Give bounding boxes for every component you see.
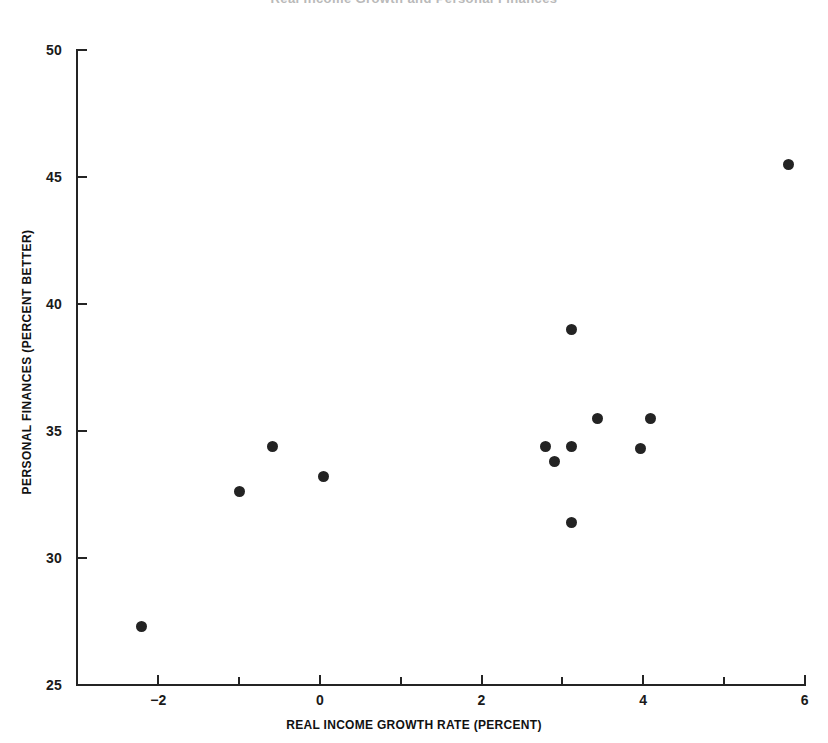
x-tick-label: −2 bbox=[133, 692, 183, 708]
y-tick-mark bbox=[76, 557, 87, 559]
y-axis-title: PERSONAL FINANCES (PERCENT BETTER) bbox=[20, 32, 34, 692]
data-point bbox=[234, 486, 245, 497]
y-tick-mark bbox=[76, 303, 87, 305]
data-point bbox=[318, 471, 329, 482]
y-tick-mark bbox=[76, 684, 87, 686]
clipped-header-text: Real Income Growth and Personal Finances bbox=[0, 0, 828, 4]
data-point bbox=[549, 456, 560, 467]
y-tick-mark bbox=[76, 176, 87, 178]
x-tick-mark-minor bbox=[561, 677, 563, 685]
x-tick-label: 6 bbox=[780, 692, 828, 708]
data-point bbox=[645, 413, 656, 424]
x-tick-mark bbox=[157, 675, 159, 685]
x-tick-label: 2 bbox=[457, 692, 507, 708]
x-tick-mark bbox=[319, 675, 321, 685]
x-tick-mark-minor bbox=[723, 677, 725, 685]
data-point bbox=[783, 159, 794, 170]
x-axis-title: REAL INCOME GROWTH RATE (PERCENT) bbox=[0, 718, 828, 732]
x-tick-label: 0 bbox=[295, 692, 345, 708]
y-tick-mark bbox=[76, 430, 87, 432]
data-point bbox=[136, 621, 147, 632]
y-tick-mark bbox=[76, 49, 87, 51]
data-point bbox=[635, 443, 646, 454]
x-tick-label: 4 bbox=[618, 692, 668, 708]
data-point bbox=[566, 324, 577, 335]
data-point bbox=[540, 441, 551, 452]
x-tick-mark-minor bbox=[238, 677, 240, 685]
data-point bbox=[592, 413, 603, 424]
x-tick-mark-minor bbox=[400, 677, 402, 685]
data-point bbox=[566, 517, 577, 528]
data-point bbox=[566, 441, 577, 452]
x-tick-mark bbox=[481, 675, 483, 685]
x-tick-mark bbox=[804, 675, 806, 685]
x-axis-line bbox=[76, 684, 806, 686]
scatter-plot-figure: Real Income Growth and Personal Finances… bbox=[0, 0, 828, 743]
x-tick-mark bbox=[642, 675, 644, 685]
data-point bbox=[267, 441, 278, 452]
y-axis-line bbox=[76, 50, 78, 686]
